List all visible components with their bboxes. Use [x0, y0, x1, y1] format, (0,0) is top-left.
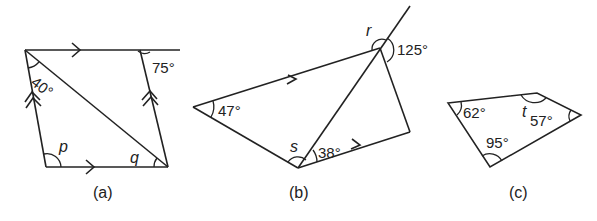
angle-label-40: 40°	[28, 73, 56, 100]
caption-c: (c)	[509, 184, 528, 201]
caption-a: (a)	[93, 184, 113, 201]
angle-arc	[211, 101, 214, 117]
angle-arc	[457, 102, 461, 115]
variable-t: t	[522, 103, 527, 120]
variable-p: p	[58, 138, 68, 155]
angle-arc	[569, 110, 571, 121]
variable-r: r	[366, 22, 372, 39]
caption-b: (b)	[289, 184, 309, 201]
angle-label-38: 38°	[318, 144, 341, 161]
angle-label-62: 62°	[463, 104, 486, 121]
angle-label-125: 125°	[397, 41, 428, 58]
figure-c: 62° 95° 57° t (c)	[448, 93, 581, 201]
angle-label-57: 57°	[530, 112, 553, 129]
bottom-right-side	[298, 132, 410, 168]
angle-arc	[313, 150, 317, 162]
angle-label-75: 75°	[152, 59, 175, 76]
geometry-figures: 40° 75° p q (a) 47° 38° 125° r s (b)	[0, 0, 597, 221]
angle-label-47: 47°	[218, 102, 241, 119]
right-side	[380, 48, 410, 132]
top-side	[193, 48, 380, 107]
angle-arc	[28, 62, 39, 68]
angle-arc	[154, 158, 157, 167]
angle-arc	[44, 154, 61, 167]
figure-b: 47° 38° 125° r s (b)	[193, 6, 428, 201]
parallel-arrow-icon	[351, 139, 360, 149]
variable-s: s	[290, 138, 298, 155]
angle-label-95: 95°	[486, 134, 509, 151]
figure-a: 40° 75° p q (a)	[25, 43, 180, 201]
variable-q: q	[130, 149, 139, 166]
bottom-left-side	[193, 107, 298, 168]
diagonal	[25, 50, 168, 167]
angle-arc-125	[387, 38, 394, 62]
